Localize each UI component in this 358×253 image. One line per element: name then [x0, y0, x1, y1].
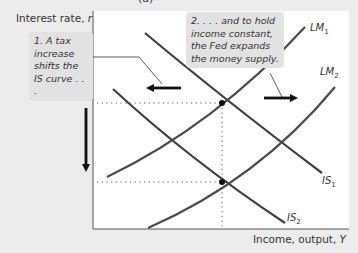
callout-2-leader: [270, 73, 282, 97]
label-lm1: LM1: [310, 22, 329, 36]
callout-fed-expands: 2. . . . and to hold income constant, th…: [186, 12, 284, 68]
equilibrium-final-dot: [219, 179, 225, 185]
arrow-left-icon: [146, 84, 181, 92]
callout-tax-increase: 1. A tax increase shifts the IS curve . …: [29, 32, 93, 101]
equilibrium-initial-dot: [219, 100, 225, 106]
callout-1-leader: [85, 57, 162, 84]
lm2-curve: [148, 87, 335, 228]
x-axis-label: Income, output, Y: [253, 233, 346, 245]
arrow-down-icon: [82, 108, 90, 172]
y-axis-label: Interest rate, r: [16, 12, 92, 24]
label-is1: IS1: [322, 175, 336, 189]
label-lm2: LM2: [320, 66, 339, 80]
label-is2: IS2: [287, 212, 301, 226]
